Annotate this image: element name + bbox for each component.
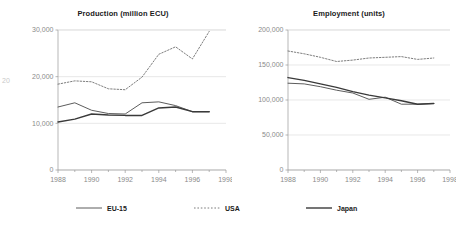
legend-swatch-eu-15	[76, 205, 102, 211]
plot-area-employment: 050,000100,000150,000200,000198819901992…	[232, 26, 456, 190]
legend-label-japan: Japan	[337, 205, 357, 212]
legend-item-usa: USA	[194, 201, 240, 215]
svg-text:1994: 1994	[151, 176, 167, 183]
two-panel-line-chart-figure: 20 Production (million ECU) 010,00020,00…	[0, 0, 460, 228]
svg-text:10,000: 10,000	[32, 120, 54, 127]
svg-text:30,000: 30,000	[32, 26, 54, 33]
legend-swatch-japan	[306, 205, 332, 211]
svg-text:1988: 1988	[280, 176, 296, 183]
series-line-usa	[58, 31, 209, 89]
svg-text:0: 0	[280, 166, 284, 173]
svg-text:200,000: 200,000	[258, 26, 283, 33]
svg-text:1994: 1994	[377, 176, 393, 183]
svg-text:100,000: 100,000	[258, 96, 283, 103]
svg-text:1992: 1992	[345, 176, 361, 183]
series-line-usa	[288, 51, 434, 62]
svg-text:150,000: 150,000	[258, 61, 283, 68]
svg-text:1998: 1998	[218, 176, 232, 183]
legend-label-usa: USA	[225, 205, 240, 212]
svg-text:1996: 1996	[185, 176, 201, 183]
chart-panel-production: Production (million ECU) 010,00020,00030…	[0, 0, 232, 190]
svg-text:50,000: 50,000	[262, 131, 284, 138]
svg-text:1998: 1998	[442, 176, 456, 183]
svg-text:1990: 1990	[84, 176, 100, 183]
legend-label-eu-15: EU-15	[107, 205, 127, 212]
svg-text:0: 0	[50, 166, 54, 173]
chart-title-employment: Employment (units)	[232, 9, 460, 18]
plot-area-production: 010,00020,00030,000198819901992199419961…	[8, 26, 232, 190]
legend-item-japan: Japan	[306, 201, 357, 215]
svg-text:1992: 1992	[117, 176, 133, 183]
chart-legend: EU-15 USA Japan	[0, 190, 460, 228]
svg-text:1990: 1990	[313, 176, 329, 183]
legend-item-eu-15: EU-15	[76, 201, 127, 215]
chart-panel-employment: Employment (units) 050,000100,000150,000…	[232, 0, 460, 190]
chart-title-production: Production (million ECU)	[0, 9, 232, 18]
svg-text:1988: 1988	[50, 176, 66, 183]
svg-text:1996: 1996	[410, 176, 426, 183]
legend-swatch-usa	[194, 205, 220, 211]
svg-text:20,000: 20,000	[32, 73, 54, 80]
series-line-eu-15	[58, 102, 209, 114]
